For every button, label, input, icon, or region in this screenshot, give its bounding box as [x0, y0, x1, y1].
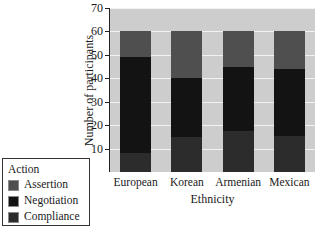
bar-segment-compliance [120, 153, 151, 172]
legend-label: Negotiation [24, 195, 78, 207]
bar-mexican [274, 31, 305, 172]
plot-area: 10203040506070 EuropeanKoreanArmenianMex… [110, 8, 315, 172]
x-axis-label-armenian: Armenian [215, 177, 261, 189]
x-axis-label-european: European [114, 177, 158, 189]
bar-segment-assertion [223, 31, 254, 66]
bar-segment-negotiation [223, 67, 254, 131]
legend-item-compliance[interactable]: Compliance [8, 210, 84, 224]
bar-armenian [223, 31, 254, 172]
bar-european [120, 31, 151, 172]
bar-segment-compliance [223, 131, 254, 172]
x-axis-title: Ethnicity [110, 192, 315, 207]
bar-segment-negotiation [274, 69, 305, 136]
y-axis-tick-label: 20 [91, 119, 103, 131]
bar-group [110, 8, 315, 172]
legend-swatch-compliance-icon [8, 212, 19, 223]
bar-segment-compliance [171, 137, 202, 172]
x-axis-label-korean: Korean [170, 177, 204, 189]
legend-entries: AssertionNegotiationCompliance [8, 178, 84, 224]
y-axis-tick-label: 30 [91, 96, 103, 108]
legend-item-assertion[interactable]: Assertion [8, 178, 84, 192]
x-axis-label-mexican: Mexican [269, 177, 309, 189]
y-axis-tick-label: 50 [91, 49, 103, 61]
legend-swatch-assertion-icon [8, 180, 19, 191]
y-axis-tick-label: 60 [91, 25, 103, 37]
y-axis-tick-label: 40 [91, 72, 103, 84]
bar-korean [171, 31, 202, 172]
bar-segment-assertion [120, 31, 151, 57]
legend: Action AssertionNegotiationCompliance [2, 158, 90, 226]
bar-segment-assertion [171, 31, 202, 78]
bar-segment-negotiation [120, 57, 151, 153]
chart-figure: Number of participants 10203040506070 Eu… [0, 0, 315, 226]
bar-segment-compliance [274, 136, 305, 172]
legend-label: Compliance [24, 211, 80, 223]
legend-swatch-negotiation-icon [8, 196, 19, 207]
legend-item-negotiation[interactable]: Negotiation [8, 194, 84, 208]
legend-label: Assertion [24, 179, 68, 191]
y-axis-tick-label: 10 [91, 143, 103, 155]
bar-segment-assertion [274, 31, 305, 68]
y-axis-tick-label: 70 [91, 2, 103, 14]
legend-title: Action [8, 163, 84, 175]
bar-segment-negotiation [171, 78, 202, 137]
